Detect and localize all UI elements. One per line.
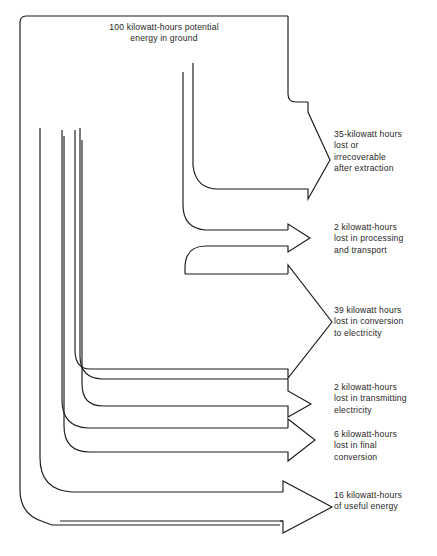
flow-label-final-conversion: 6 kilowatt-hours lost in final conversio… [334, 429, 437, 463]
energy-flow-diagram: 100 kilowatt-hours potential energy in g… [0, 0, 437, 556]
flow-label-useful-energy: 16 kilowatt-hours of useful energy [334, 490, 437, 513]
band-processing-upper-edge [183, 72, 288, 230]
arrow-useful [280, 481, 332, 533]
arrow-transmitting [82, 140, 311, 417]
arrow-conversion [75, 130, 332, 378]
flow-label-processing: 2 kilowatt-hours lost in processing and … [334, 222, 437, 256]
arrow-extraction [286, 102, 330, 199]
band-final-upper-edge [62, 130, 288, 428]
band-transmitting-upper-edge [80, 128, 288, 379]
source-label: 100 kilowatt-hours potential energy in g… [64, 22, 264, 45]
arrow-processing [185, 224, 310, 274]
band-source-right-wall [288, 16, 308, 102]
arrow-final [64, 136, 315, 461]
flow-label-transmitting: 2 kilowatt-hours lost in transmitting el… [334, 382, 437, 416]
flow-band-graphic [0, 0, 437, 556]
band-useful-upper-edge [40, 128, 283, 492]
band-extraction-lower-edge [193, 63, 286, 189]
flow-label-conversion: 39 kilowatt hours lost in conversion to … [334, 305, 437, 339]
flow-label-extraction: 35-kilowatt hours lost or irrecoverable … [334, 129, 437, 175]
band-outer-top-and-left [20, 16, 288, 525]
